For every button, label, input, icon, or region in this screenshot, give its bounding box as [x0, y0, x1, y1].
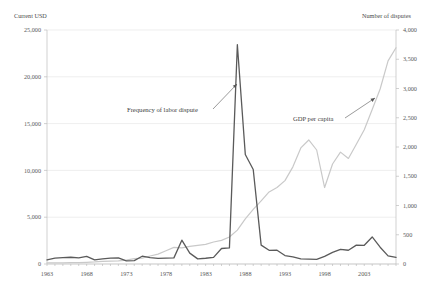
- chart-figure: 05,00010,00015,00020,00025,00005001,0001…: [0, 0, 441, 297]
- frequency-annotation: Frequency of labor dispute: [127, 84, 237, 113]
- left-tick-label: 20,000: [24, 73, 41, 80]
- tick-labels-group: 05,00010,00015,00020,00025,00005001,0001…: [24, 26, 417, 277]
- x-tick-label: 1983: [199, 270, 211, 277]
- x-tick-label: 1963: [41, 270, 53, 277]
- x-tick-label: 1968: [80, 270, 92, 277]
- right-tick-label: 2,500: [403, 114, 417, 121]
- x-tick-label: 1988: [239, 270, 251, 277]
- series-group: [47, 45, 396, 263]
- right-tick-label: 3,000: [403, 85, 417, 92]
- series-line-gdp-per-capita: [47, 48, 396, 263]
- right-tick-label: 1,500: [403, 172, 417, 179]
- annotations-group: Frequency of labor disputeGDP per capita: [127, 84, 375, 122]
- left-tick-label: 0: [38, 260, 41, 267]
- right-axis-title: Number of disputes: [362, 12, 411, 19]
- right-tick-label: 0: [403, 260, 406, 267]
- gdp-annotation: GDP per capita: [293, 98, 375, 122]
- right-tick-label: 1,000: [403, 202, 417, 209]
- x-tick-label: 2003: [358, 270, 370, 277]
- left-tick-label: 5,000: [27, 213, 41, 220]
- right-tick-label: 2,000: [403, 143, 417, 150]
- left-tick-label: 10,000: [24, 167, 41, 174]
- annotation-text: GDP per capita: [293, 115, 333, 122]
- annotation-leader-line: [213, 84, 237, 109]
- left-tick-label: 15,000: [24, 120, 41, 127]
- gridlines-group: [47, 30, 396, 264]
- dual-axis-line-chart: 05,00010,00015,00020,00025,00005001,0001…: [0, 0, 441, 297]
- left-axis-title: Current USD: [14, 12, 47, 19]
- right-tick-label: 500: [403, 231, 412, 238]
- left-tick-label: 25,000: [24, 26, 41, 33]
- annotation-text: Frequency of labor dispute: [127, 106, 198, 113]
- x-tick-label: 1998: [318, 270, 330, 277]
- axes-group: [44, 30, 399, 266]
- right-tick-label: 3,500: [403, 55, 417, 62]
- x-tick-label: 1973: [120, 270, 132, 277]
- x-tick-label: 1978: [160, 270, 172, 277]
- right-tick-label: 4,000: [403, 26, 417, 33]
- annotation-arrowhead-icon: [370, 98, 375, 102]
- x-tick-label: 1993: [279, 270, 291, 277]
